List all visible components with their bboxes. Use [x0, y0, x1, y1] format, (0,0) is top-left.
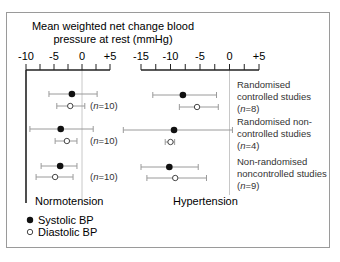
group-label-line: controlled studies — [237, 128, 311, 139]
group-label-line: Randomised — [237, 79, 290, 90]
x-axis-tick-label: +5 — [253, 50, 266, 62]
panel-label-hypertension: Hypertension — [173, 195, 238, 207]
diastolic-mean-marker — [68, 103, 73, 108]
chart-title-line-2: pressure at rest (mmHg) — [53, 33, 172, 45]
sample-size-label: (n=10) — [90, 100, 118, 111]
systolic-mean-marker — [180, 92, 187, 99]
x-axis-tick-label: +5 — [104, 50, 117, 62]
systolic-mean-marker — [57, 126, 64, 133]
x-axis-tick-label: -5 — [195, 50, 205, 62]
x-axis-tick-label: -5 — [49, 50, 59, 62]
panel-label-normotension: Normotension — [35, 195, 103, 207]
group-sample-size: (n=8) — [237, 103, 259, 114]
legend-diastolic-label: Diastolic BP — [38, 226, 97, 238]
systolic-mean-marker — [171, 127, 178, 134]
chart-title-line-1: Mean weighted net change blood — [32, 20, 194, 32]
diastolic-mean-marker — [168, 139, 173, 144]
legend-systolic-label: Systolic BP — [38, 214, 94, 226]
x-axis-tick-label: -10 — [18, 50, 34, 62]
group-label-line: Randomised non- — [237, 116, 312, 127]
diastolic-mean-marker — [173, 175, 178, 180]
x-axis-tick-label: -10 — [163, 50, 179, 62]
x-axis-tick-label: 0 — [226, 50, 232, 62]
systolic-mean-marker — [57, 163, 64, 170]
group-label-line: controlled studies — [237, 91, 311, 102]
group-label-line: noncontrolled studies — [237, 168, 327, 179]
group-sample-size: (n=9) — [237, 180, 259, 191]
sample-size-label: (n=10) — [90, 171, 118, 182]
group-label-line: Non-randomised — [237, 156, 307, 167]
sample-size-label: (n=10) — [90, 135, 118, 146]
diastolic-mean-marker — [52, 174, 57, 179]
legend-diastolic-marker — [27, 229, 32, 234]
x-axis-tick-label: -15 — [133, 50, 149, 62]
forest-plot: Mean weighted net change bloodpressure a… — [0, 0, 340, 262]
x-axis-tick-label: 0 — [79, 50, 85, 62]
systolic-mean-marker — [166, 164, 173, 171]
diastolic-mean-marker — [194, 104, 199, 109]
diastolic-mean-marker — [64, 138, 69, 143]
systolic-mean-marker — [69, 91, 76, 98]
group-sample-size: (n=4) — [237, 140, 259, 151]
legend-systolic-marker — [27, 217, 33, 223]
